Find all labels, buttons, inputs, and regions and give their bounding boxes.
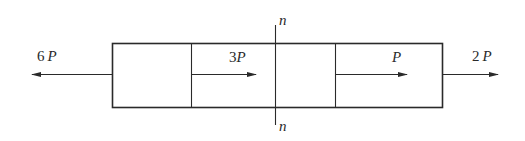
force-label-3p: 3P — [229, 50, 246, 65]
diagram-canvas: 6 P 3P P 2 P n n — [0, 0, 525, 141]
force-variable: P — [483, 48, 492, 64]
force-coefficient: 6 — [37, 48, 45, 64]
force-label-6p: 6 P — [37, 49, 57, 64]
force-label-2p: 2 P — [472, 49, 492, 64]
bar-diagram — [0, 0, 525, 141]
force-coefficient: 3 — [229, 49, 237, 65]
section-label-top: n — [279, 13, 287, 28]
force-variable: P — [237, 49, 246, 65]
force-coefficient: 2 — [472, 48, 480, 64]
force-variable: P — [392, 49, 401, 65]
force-label-p: P — [392, 50, 401, 65]
section-label-bottom: n — [279, 119, 287, 134]
force-variable: P — [48, 48, 57, 64]
